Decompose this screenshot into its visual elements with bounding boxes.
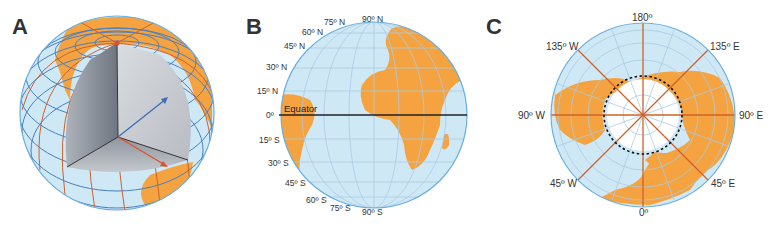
label-135e: 135º E <box>710 42 740 52</box>
label-45e: 45º E <box>711 179 735 189</box>
globe-a <box>0 0 772 227</box>
label-15n: 15º N <box>257 87 278 96</box>
label-45s: 45º S <box>285 179 306 188</box>
label-90n: 90º N <box>362 15 383 24</box>
label-75s: 75º S <box>330 204 351 213</box>
label-60s: 60º S <box>306 196 327 205</box>
label-60n: 60º N <box>302 28 323 37</box>
equator-label: Equator <box>284 104 317 114</box>
label-90w: 90º W <box>518 111 545 121</box>
label-45n: 45º N <box>284 42 305 51</box>
label-0-meridian: 0º <box>639 208 648 218</box>
panel-b-letter: B <box>246 14 262 40</box>
label-90s: 90º S <box>362 208 383 217</box>
label-15s: 15º S <box>259 136 280 145</box>
label-135w: 135º W <box>546 42 579 52</box>
label-30n: 30º N <box>266 63 287 72</box>
panel-c-letter: C <box>486 14 502 40</box>
label-45w: 45º W <box>550 179 577 189</box>
label-180: 180º <box>632 13 652 23</box>
label-0: 0º <box>266 111 274 120</box>
label-75n: 75º N <box>324 18 345 27</box>
label-30s: 30º S <box>268 159 289 168</box>
label-90e: 90º E <box>739 111 763 121</box>
north-pole-point <box>115 41 120 46</box>
